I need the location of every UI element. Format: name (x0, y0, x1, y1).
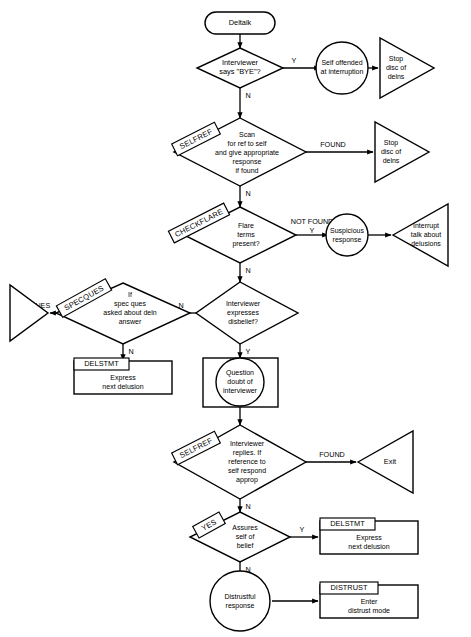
node-disbelief-line1: Interviewer (226, 300, 261, 307)
node-stop-disc-1-line2: disc of (386, 64, 406, 71)
node-selfref-1-line3: and give appropriate (215, 149, 279, 157)
node-selfref-2-line2: replies. If (233, 449, 261, 457)
node-triangle-interrupt-talk[interactable]: Interrupt talk about delusions (393, 204, 448, 266)
node-box-delstmt-1[interactable]: DELSTMT Express next delusion (74, 358, 172, 394)
edge-label-assures-yes: Y (300, 525, 305, 534)
node-selfref-2-line5: approp (236, 476, 258, 484)
node-delstmt-1-header: DELSTMT (84, 359, 119, 368)
node-question-doubt-line2: doubt of (227, 378, 252, 385)
edge-label-checkflare-no: N (245, 266, 250, 275)
node-distrustful-line1: Distrustful (224, 593, 256, 600)
node-decision-expresses-disbelief[interactable]: Interviewer expresses disbelief? (196, 282, 298, 344)
edge-label-selfref1-found: FOUND (320, 140, 346, 149)
node-circle-distrustful-response[interactable]: Distrustful response (210, 571, 270, 631)
node-question-doubt-line1: Question (226, 369, 254, 377)
node-specques-line3: asked about deln (103, 309, 156, 316)
node-stop-disc-2-line2: disc of (381, 148, 401, 155)
node-assures-line1: Assures (232, 524, 258, 531)
edge-label-bye-no: N (245, 91, 250, 100)
node-interrupt-line1: Interrupt (413, 222, 439, 230)
node-suspicious-line1: Suspicious (330, 227, 364, 235)
node-start-deltalk[interactable]: Deltalk (205, 12, 275, 34)
node-assures-line3: belief (237, 542, 254, 549)
node-stop-disc-1-line1: Stop (389, 55, 404, 63)
node-triangle-stop-disc-1[interactable]: Stop disc of delns (380, 38, 434, 98)
edge-label-checkflare-notfound: NOT FOUND (291, 217, 334, 226)
node-stop-disc-2-line1: Stop (384, 139, 399, 147)
edge-label-bye-yes: Y (292, 56, 297, 65)
node-decision-selfref-2[interactable]: Interviewer replies. If reference to sel… (174, 425, 306, 499)
node-box-delstmt-2[interactable]: DELSTMT Express next delusion (320, 518, 418, 554)
node-selfref-2-line3: reference to (228, 458, 265, 465)
node-selfref-1-line4: response (233, 158, 262, 166)
node-assures-line2: self of (236, 533, 255, 540)
node-decision-says-bye[interactable]: Interviewer says "BYE"? (197, 48, 283, 88)
node-disbelief-line2: expresses (227, 309, 259, 317)
node-self-offended-line1: Self offended (321, 59, 362, 66)
node-start-label: Deltalk (229, 18, 252, 27)
node-distrust-line1: Enter (361, 598, 378, 605)
node-delstmt-2-line2: next delusion (348, 543, 389, 550)
node-says-bye-line1: Interviewer (222, 58, 259, 67)
node-disbelief-line3: disbelief? (228, 318, 258, 325)
node-triangle-ques[interactable] (10, 285, 48, 341)
node-interrupt-line2: talk about (411, 231, 441, 238)
node-exit-label: Exit (384, 457, 396, 466)
node-triangle-exit[interactable]: Exit (358, 431, 413, 493)
node-stop-disc-1-line3: delns (388, 73, 405, 80)
node-delstmt-2-header: DELSTMT (330, 519, 365, 528)
node-decision-specques[interactable]: If spec ques asked about deln answer (56, 283, 190, 344)
edge-label-specques-no: N (128, 347, 133, 356)
node-specques-line4: answer (119, 318, 142, 325)
node-box-distrust[interactable]: DISTRUST Enter distrust mode (320, 582, 418, 618)
node-distrust-header: DISTRUST (331, 583, 368, 592)
node-delstmt-1-line1: Express (110, 374, 136, 382)
flowchart-canvas: Deltalk Interviewer says "BYE"? Y N Self… (0, 0, 471, 637)
node-circle-self-offended[interactable]: Self offended at interruption (316, 42, 368, 94)
node-distrustful-line2: response (226, 602, 255, 610)
node-delstmt-2-line1: Express (356, 534, 382, 542)
node-checkflare-line2: terms (237, 231, 255, 238)
node-selfref-2-line4: self respond (228, 467, 266, 475)
edge-label-selfref1-no: N (245, 189, 250, 198)
node-checkflare-line3: present? (232, 240, 259, 248)
node-selfref-1-line5: if found (236, 167, 259, 174)
node-suspicious-line2: response (333, 236, 362, 244)
node-selfref-1-line2: for ref to self (228, 140, 267, 147)
node-specques-line1: If (128, 291, 132, 298)
node-circle-suspicious-response[interactable]: Suspicious response (326, 214, 368, 256)
node-specques-line2: spec ques (114, 300, 146, 308)
edge-label-selfref2-found: FOUND (319, 450, 345, 459)
node-triangle-stop-disc-2[interactable]: Stop disc of delns (375, 122, 429, 182)
node-question-doubt-interviewer[interactable]: Question doubt of interviewer (203, 358, 278, 407)
node-interrupt-line3: delusions (411, 240, 441, 247)
edge-label-selfref2-no: N (245, 502, 250, 511)
node-checkflare-line1: Flare (238, 222, 254, 229)
node-distrust-line2: distrust mode (348, 607, 390, 614)
flowchart-svg: Deltalk Interviewer says "BYE"? Y N Self… (0, 0, 471, 637)
node-question-doubt-line3: interviewer (223, 387, 258, 394)
node-decision-selfref-1[interactable]: Scan for ref to self and give appropriat… (174, 118, 306, 186)
edge-label-checkflare-y: Y (310, 226, 315, 235)
node-selfref-1-line1: Scan (239, 131, 255, 138)
node-stop-disc-2-line3: delns (383, 157, 400, 164)
edge-label-disbelief-yes: Y (246, 347, 251, 356)
node-says-bye-line2: says "BYE"? (219, 67, 260, 76)
node-delstmt-1-line2: next delusion (102, 383, 143, 390)
node-self-offended-line2: at interruption (321, 68, 364, 76)
node-selfref-2-line1: Interviewer (230, 440, 265, 447)
